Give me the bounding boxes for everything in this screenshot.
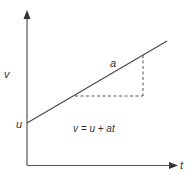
velocity-time-diagram: v t u a v = u + at [0,0,194,178]
x-axis-arrow-icon [169,162,178,169]
intercept-label: u [16,118,22,130]
y-axis-arrow-icon [24,10,31,19]
velocity-line [27,41,167,123]
equation-label: v = u + at [73,123,116,134]
x-axis-label: t [180,159,184,171]
y-axis-label: v [4,68,11,80]
slope-label: a [110,57,116,69]
